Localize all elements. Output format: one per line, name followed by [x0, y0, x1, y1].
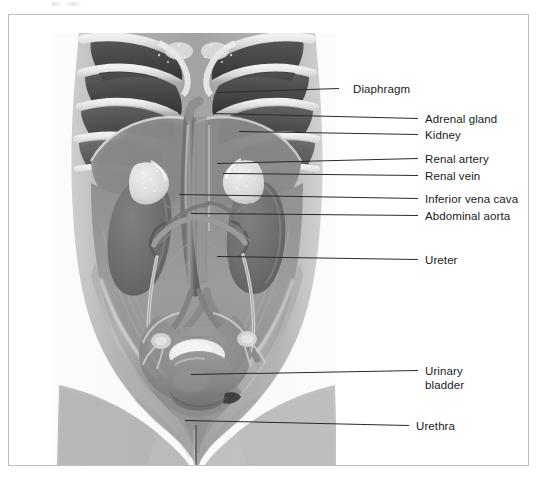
anatomy-illustration — [39, 33, 350, 465]
label-renal-vein: Renal vein — [425, 170, 480, 184]
label-abdominal-aorta: Abdominal aorta — [425, 210, 510, 224]
figure-frame: DiaphragmAdrenal glandKidneyRenal artery… — [8, 14, 529, 466]
label-urinary-bladder: Urinary bladder — [425, 365, 464, 392]
label-adrenal-gland: Adrenal gland — [425, 113, 497, 127]
label-renal-artery: Renal artery — [425, 153, 489, 167]
label-inferior-vena-cava: Inferior vena cava — [425, 193, 518, 207]
print-crop-mark — [52, 2, 82, 6]
label-diaphragm: Diaphragm — [353, 83, 410, 97]
label-kidney: Kidney — [425, 129, 461, 143]
label-ureter: Ureter — [425, 254, 458, 268]
label-urethra: Urethra — [416, 420, 455, 434]
figure-root: DiaphragmAdrenal glandKidneyRenal artery… — [0, 0, 537, 478]
